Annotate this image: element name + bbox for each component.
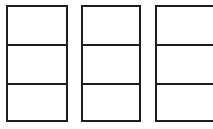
box-cell-row-1 — [83, 7, 139, 45]
stacked-box-3 — [155, 5, 213, 122]
stacked-box-1 — [6, 5, 68, 122]
box-cell-row-2 — [157, 45, 213, 83]
box-cell-row-2 — [8, 45, 66, 83]
box-cell-row-1 — [157, 7, 213, 45]
row-divider-2 — [8, 83, 66, 85]
row-divider-2 — [157, 83, 213, 85]
box-cell-row-3 — [157, 82, 213, 120]
box-cell-row-2 — [83, 45, 139, 83]
box-cell-row-1 — [8, 7, 66, 45]
box-cell-row-3 — [83, 82, 139, 120]
row-divider-1 — [8, 44, 66, 46]
row-divider-1 — [157, 44, 213, 46]
row-divider-2 — [83, 83, 139, 85]
box-cell-row-3 — [8, 82, 66, 120]
stacked-box-2 — [81, 5, 141, 122]
row-divider-1 — [83, 44, 139, 46]
